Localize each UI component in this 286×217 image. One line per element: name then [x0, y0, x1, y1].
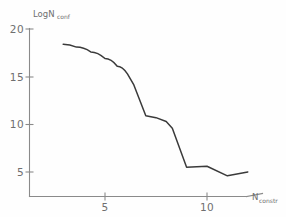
chart-figure: 20 15 10 5 5 10 LogN conf N constr: [0, 0, 286, 217]
y-tick-label-15: 15: [10, 71, 24, 83]
x-tick-label-10: 10: [200, 201, 214, 213]
y-tick-label-10: 10: [10, 118, 24, 130]
x-axis-title: N: [252, 192, 258, 202]
x-tick-label-5: 5: [101, 201, 108, 213]
y-tick-label-20: 20: [10, 23, 24, 35]
y-axis-title: LogN: [33, 9, 55, 19]
y-axis-title-subscript: conf: [57, 13, 71, 20]
data-series-line: [63, 44, 248, 176]
line-chart-svg: 20 15 10 5 5 10 LogN conf N constr: [0, 0, 286, 217]
y-tick-label-5: 5: [17, 166, 24, 178]
x-axis-title-subscript: constr: [259, 197, 278, 204]
